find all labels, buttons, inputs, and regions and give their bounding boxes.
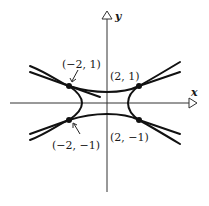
pointer-arrows (70, 70, 80, 134)
label-2-1: (2, 1) (110, 70, 140, 83)
y-axis-arrow-icon (102, 11, 112, 19)
upper-curve (30, 62, 180, 92)
lower-left-line (30, 120, 69, 134)
point-2-1 (136, 83, 142, 89)
point-neg2-1 (66, 83, 72, 89)
x-axis-arrow-icon (189, 98, 197, 108)
axes (10, 11, 197, 192)
label-neg2-neg1: (−2, −1) (52, 139, 100, 152)
arrow-to-neg2-neg1 (74, 124, 80, 134)
x-axis-label: x (190, 86, 198, 99)
y-axis-label: y (114, 10, 123, 23)
label-neg2-1: (−2, 1) (62, 58, 101, 71)
upper-left-line (30, 72, 100, 97)
hyperbola-diagram: x y (−2, 1) (2, 1) (−2, −1) (2, −1) (0, 0, 209, 206)
label-2-neg1: (2, −1) (110, 131, 149, 144)
point-neg2-neg1 (66, 117, 72, 123)
point-2-neg1 (136, 117, 142, 123)
